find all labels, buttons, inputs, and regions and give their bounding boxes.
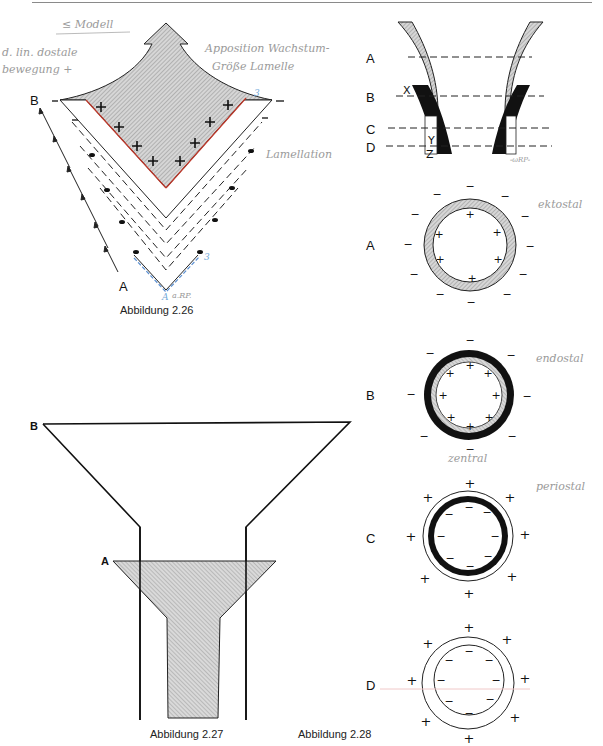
svg-text:+: + [465,476,476,491]
svg-text:−: − [464,645,473,658]
handwritten-right-note-1: Apposition Wachstum- [204,42,330,55]
ring-a: A ektostal − − − − − − − − − − − − + + +… [366,180,583,309]
svg-text:−: − [466,296,475,309]
svg-text:−: − [507,430,516,443]
svg-text:−: − [410,208,419,221]
svg-text:−: − [406,388,415,401]
svg-text:−: − [432,188,441,201]
svg-text:+: + [467,272,476,285]
handwritten-zentral: zentral [447,452,488,465]
handwritten-ektostal: ektostal [538,198,583,211]
svg-text:−: − [436,674,445,687]
section-label-c: C [366,122,375,137]
svg-text:−: − [518,268,527,281]
svg-text:+: + [464,731,475,746]
svg-text:+: + [406,529,417,544]
ring-label-c: C [366,531,375,546]
ring-label-b: B [366,388,375,403]
svg-text:+: + [510,710,521,725]
blue-mark-a: A [161,292,169,302]
svg-text:+: + [421,714,432,729]
section-label-d: D [366,140,375,155]
section-label-a: A [366,51,375,66]
svg-text:−: − [464,501,473,514]
svg-text:+: + [492,226,501,239]
figure-2-28: A B C D X Y Z -ωRP- A ektostal − − − − −… [298,22,586,746]
signature-2-28: -ωRP- [510,156,531,164]
section-label-b: B [366,90,375,105]
page-figures: ≤ Modell d. lin. dostale bewegung + Appo… [0,0,603,746]
svg-text:−: − [444,654,453,667]
ring-label-a: A [366,238,375,253]
svg-text:−: − [483,550,492,563]
svg-text:+: + [507,569,518,584]
svg-text:+: + [505,490,516,505]
svg-text:−: − [520,210,529,223]
svg-text:−: − [525,240,534,253]
label-b: B [30,93,39,108]
svg-text:+: + [465,208,474,221]
svg-text:−: − [502,288,511,301]
signature: a.RP. [172,291,192,300]
figure-2-27: B A Abbildung 2.27 [30,420,350,740]
marker-y: Y [427,134,435,147]
svg-text:−: − [490,530,499,543]
svg-text:−: − [500,190,509,203]
figure-2-26: ≤ Modell d. lin. dostale bewegung + Appo… [2,18,332,316]
svg-text:−: − [409,268,418,281]
svg-text:−: − [484,654,493,667]
svg-text:−: − [506,349,515,362]
svg-text:+: + [483,367,492,380]
svg-text:+: + [434,228,443,241]
svg-text:+: + [502,632,513,647]
handwritten-left-note-2: bewegung + [2,63,72,76]
svg-text:+: + [464,620,475,635]
marker-x: X [403,84,411,97]
ring-b: B endostal − − − − − − − − + + + + + + +… [366,334,584,465]
ring-c: C periostal + + + + + + + + − − − − − − … [366,476,586,601]
blue-mark-3-top: 3 [254,88,260,98]
svg-text:+: + [407,673,418,688]
svg-text:−: − [491,674,500,687]
svg-text:+: + [438,389,447,402]
svg-text:+: + [423,490,434,505]
svg-text:+: + [520,527,531,542]
svg-text:−: − [435,288,444,301]
svg-text:−: − [465,560,474,573]
svg-text:−: − [444,508,453,521]
label-a: A [119,279,128,294]
blue-mark-3-bottom: 3 [204,252,210,262]
handwritten-title: ≤ Modell [62,18,114,31]
svg-text:+: + [491,389,500,402]
svg-text:+: + [446,411,455,424]
svg-text:+: + [423,636,434,651]
handwritten-periostal: periostal [536,480,586,493]
ring-label-d: D [366,678,375,693]
svg-text:−: − [403,238,412,251]
label-b: B [30,420,38,432]
svg-text:+: + [484,411,493,424]
svg-text:+: + [465,359,474,372]
svg-text:−: − [465,180,474,193]
svg-text:+: + [435,253,444,266]
svg-text:+: + [465,420,474,433]
svg-text:−: − [522,390,531,403]
svg-text:+: + [464,586,475,601]
svg-text:−: − [419,430,428,443]
marker-z: Z [426,148,434,161]
handwritten-right-note-2: Größe Lamelle [212,60,295,73]
svg-text:+: + [520,671,531,686]
svg-text:−: − [464,707,473,720]
svg-text:−: − [444,695,453,708]
svg-text:−: − [445,552,454,565]
svg-text:+: + [493,253,502,266]
label-a: A [101,555,109,567]
svg-text:−: − [482,506,491,519]
caption-2-27: Abbildung 2.27 [150,728,223,740]
svg-text:−: − [485,693,494,706]
svg-text:+: + [445,367,454,380]
svg-text:+: + [420,571,431,586]
svg-text:−: − [425,347,434,360]
handwritten-lamellation: Lamellation [265,148,332,161]
caption-2-26: Abbildung 2.26 [120,304,193,316]
